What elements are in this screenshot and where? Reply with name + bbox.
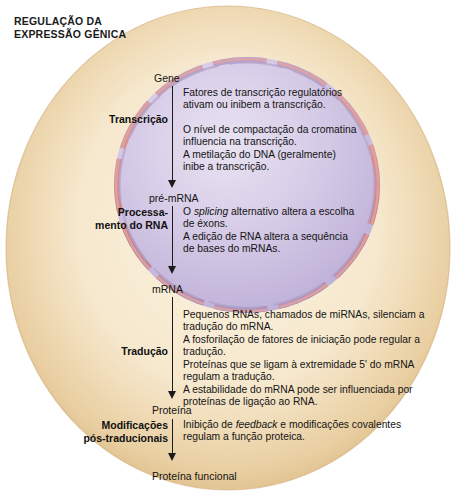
desc-traducao-4: A estabilidade do mRNA pode ser influenc… [183, 384, 465, 409]
desc-traducao-3: Proteínas que se ligam à extremidade 5' … [183, 359, 465, 384]
stage-label-transcricao: Transcrição [48, 113, 168, 126]
flow-arrow-line-transcricao [172, 86, 173, 182]
stage-label-modificacoes-pos-traducionais: Modificações pós-traducionais [38, 419, 168, 444]
desc-transcricao-3: A metilação do DNA (geralmente) inibe a … [183, 149, 433, 174]
desc-processamento-2: A edição de RNA altera a sequência de ba… [183, 231, 433, 256]
desc-modificacoes-1: Inibição de feedback e modificações cova… [183, 419, 465, 444]
flow-arrow-line-traducao [172, 297, 173, 393]
page-title: REGULAÇÃO DA EXPRESSÃO GÊNICA [14, 15, 126, 41]
flow-arrow-head-processamento [168, 266, 176, 274]
flow-node-pre-mrna: pré-mRNA [149, 192, 199, 204]
flow-arrow-line-processamento [172, 206, 173, 268]
flow-node-mrna: mRNA [152, 283, 183, 295]
desc-transcricao-1: Fatores de transcrição regulatórios ativ… [183, 87, 433, 112]
flow-arrow-head-traducao [168, 391, 176, 399]
desc-transcricao-2: O nível de compactação da cromatina infl… [183, 124, 433, 149]
flow-node-proteina: Proteína [152, 404, 192, 416]
flow-arrow-head-transcricao [168, 180, 176, 188]
stage-label-processamento-do-rna: Processa- mento do RNA [48, 206, 168, 231]
flow-arrow-head-modificacoes [168, 453, 176, 461]
desc-processamento-1: O splicing alternativo altera a escolha … [183, 206, 433, 231]
desc-traducao-1: Pequenos RNAs, chamados de miRNAs, silen… [183, 309, 465, 334]
desc-traducao-2: A fosforilação de fatores de iniciação p… [183, 334, 465, 359]
flow-node-proteina-funcional: Proteína funcional [152, 470, 237, 482]
flow-arrow-line-modificacoes [172, 419, 173, 455]
stage-label-traducao: Tradução [48, 345, 168, 358]
diagram-canvas: REGULAÇÃO DA EXPRESSÃO GÊNICA Gene Trans… [0, 0, 473, 497]
flow-node-gene: Gene [154, 72, 180, 84]
